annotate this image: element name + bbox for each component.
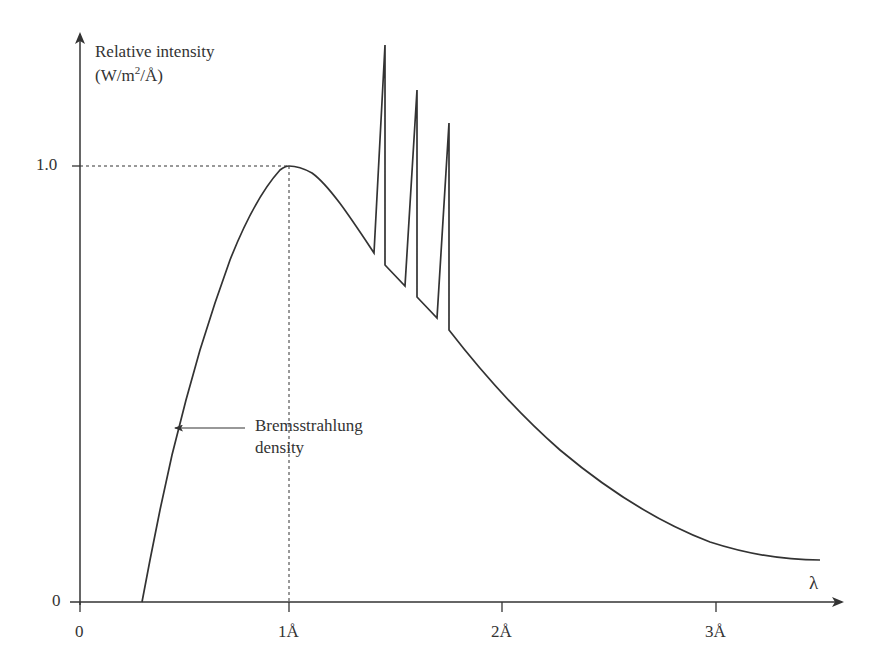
- x-tick-label-1: 1Å: [278, 622, 299, 642]
- y-axis-title: Relative intensity (W/m2/Å): [95, 42, 214, 86]
- chart-canvas: [0, 0, 884, 670]
- units-prefix: (W/m: [95, 66, 135, 85]
- y-tick-label-1: 1.0: [36, 155, 57, 175]
- units-suffix: /Å): [140, 66, 163, 85]
- chart-figure: Relative intensity (W/m2/Å) 1.0 0 0 1Å 2…: [0, 0, 884, 670]
- x-tick-label-2: 2Å: [491, 622, 512, 642]
- y-axis-title-line1: Relative intensity: [95, 42, 214, 62]
- spectrum-curve: [142, 45, 820, 602]
- annotation-label: Bremsstrahlung density: [255, 415, 363, 459]
- x-tick-label-0: 0: [75, 622, 84, 642]
- y-axis-units: (W/m2/Å): [95, 64, 214, 86]
- annotation-line2: density: [255, 437, 363, 459]
- annotation-line1: Bremsstrahlung: [255, 415, 363, 437]
- y-tick-label-0: 0: [52, 591, 61, 611]
- x-tick-label-3: 3Å: [705, 622, 726, 642]
- x-axis-symbol: λ: [809, 572, 818, 594]
